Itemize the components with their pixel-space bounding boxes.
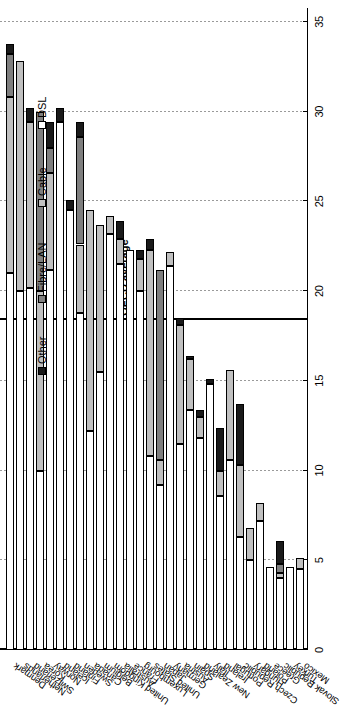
bar-segment-dsl[interactable]: [166, 266, 174, 650]
bar-segment-dsl[interactable]: [136, 291, 144, 650]
bar-row[interactable]: [6, 22, 14, 650]
bar-row[interactable]: [106, 22, 114, 650]
bar-segment-other[interactable]: [26, 108, 34, 122]
bar-row[interactable]: [176, 22, 184, 650]
bar-segment-dsl[interactable]: [26, 288, 34, 650]
bar-segment-dsl[interactable]: [6, 273, 14, 650]
bar-segment-cable[interactable]: [96, 225, 104, 372]
bar-segment-dsl[interactable]: [66, 210, 74, 650]
bar-row[interactable]: [146, 22, 154, 650]
bar-segment-other[interactable]: [176, 318, 184, 325]
bar-segment-dsl[interactable]: [226, 460, 234, 650]
bar-segment-cable[interactable]: [76, 245, 84, 313]
bar-segment-cable[interactable]: [146, 250, 154, 456]
bar-segment-dsl[interactable]: [176, 444, 184, 650]
bar-row[interactable]: [96, 22, 104, 650]
bar-segment-other[interactable]: [236, 404, 244, 465]
bar-segment-cable[interactable]: [166, 252, 174, 266]
bar-segment-cable[interactable]: [276, 573, 284, 578]
bar-row[interactable]: [116, 22, 124, 650]
bar-segment-cable[interactable]: [296, 559, 304, 570]
bar-row[interactable]: [186, 22, 194, 650]
bar-row[interactable]: [196, 22, 204, 650]
bar-row[interactable]: [136, 22, 144, 650]
bar-row[interactable]: [86, 22, 94, 650]
bar-segment-dsl[interactable]: [36, 471, 44, 650]
bar-row[interactable]: [46, 22, 54, 650]
bar-segment-fibre-lan[interactable]: [46, 148, 54, 173]
bar-segment-dsl[interactable]: [106, 234, 114, 650]
bar-segment-cable[interactable]: [106, 216, 114, 234]
bar-segment-cable[interactable]: [176, 325, 184, 443]
bar-segment-dsl[interactable]: [116, 264, 124, 650]
bar-segment-cable[interactable]: [46, 173, 54, 270]
bar-segment-cable[interactable]: [196, 417, 204, 439]
bar-row[interactable]: [236, 22, 244, 650]
bar-segment-cable[interactable]: [26, 123, 34, 288]
bar-segment-cable[interactable]: [226, 370, 234, 460]
bar-segment-fibre-lan[interactable]: [76, 137, 84, 245]
bar-segment-dsl[interactable]: [266, 567, 274, 650]
bar-row[interactable]: [16, 22, 24, 650]
bar-segment-other[interactable]: [76, 123, 84, 137]
bar-row[interactable]: [246, 22, 254, 650]
bar-segment-dsl[interactable]: [16, 291, 24, 650]
bar-row[interactable]: [206, 22, 214, 650]
bar-row[interactable]: [266, 22, 274, 650]
bar-segment-dsl[interactable]: [46, 270, 54, 650]
bar-segment-other[interactable]: [196, 410, 204, 417]
bar-segment-cable[interactable]: [6, 97, 14, 273]
bar-row[interactable]: [166, 22, 174, 650]
bar-segment-cable[interactable]: [116, 239, 124, 264]
bar-segment-dsl[interactable]: [276, 578, 284, 650]
bar-segment-other[interactable]: [136, 250, 144, 259]
bar-row[interactable]: [276, 22, 284, 650]
bar-row[interactable]: [216, 22, 224, 650]
bar-row[interactable]: [126, 22, 134, 650]
bar-segment-dsl[interactable]: [216, 496, 224, 650]
bar-segment-dsl[interactable]: [196, 438, 204, 650]
bar-row[interactable]: [26, 22, 34, 650]
bar-segment-dsl[interactable]: [246, 560, 254, 650]
bar-segment-cable[interactable]: [216, 471, 224, 496]
bar-segment-other[interactable]: [146, 239, 154, 250]
bar-segment-cable[interactable]: [16, 62, 24, 292]
bar-segment-cable[interactable]: [156, 460, 164, 485]
bar-row[interactable]: [76, 22, 84, 650]
bar-segment-fibre-lan[interactable]: [156, 270, 164, 460]
bar-segment-other[interactable]: [56, 108, 64, 122]
bar-segment-dsl[interactable]: [56, 122, 64, 650]
bar-segment-fibre-lan[interactable]: [6, 54, 14, 97]
bar-segment-dsl[interactable]: [256, 521, 264, 650]
bar-segment-dsl[interactable]: [86, 431, 94, 650]
bar-segment-fibre-lan[interactable]: [276, 564, 284, 573]
bar-segment-other[interactable]: [6, 44, 14, 55]
bar-segment-cable[interactable]: [256, 503, 264, 521]
bar-segment-dsl[interactable]: [76, 313, 84, 650]
bar-segment-other[interactable]: [186, 356, 194, 360]
bar-row[interactable]: [226, 22, 234, 650]
bar-segment-other[interactable]: [116, 221, 124, 239]
bar-segment-dsl[interactable]: [206, 384, 214, 650]
bar-segment-cable[interactable]: [236, 465, 244, 537]
bar-row[interactable]: [256, 22, 264, 650]
bar-segment-dsl[interactable]: [286, 567, 294, 650]
bar-segment-cable[interactable]: [246, 528, 254, 560]
bar-segment-cable[interactable]: [136, 259, 144, 291]
bar-row[interactable]: [66, 22, 74, 650]
bar-segment-other[interactable]: [66, 200, 74, 211]
bar-segment-dsl[interactable]: [126, 250, 134, 650]
bar-segment-fibre-lan[interactable]: [36, 112, 44, 291]
bar-row[interactable]: [286, 22, 294, 650]
bar-row[interactable]: [296, 22, 304, 650]
bar-segment-other[interactable]: [46, 123, 54, 148]
bar-row[interactable]: [56, 22, 64, 650]
bar-segment-dsl[interactable]: [296, 569, 304, 650]
bar-segment-cable[interactable]: [186, 359, 194, 409]
bar-segment-other[interactable]: [216, 428, 224, 471]
bar-segment-cable[interactable]: [36, 291, 44, 470]
bar-row[interactable]: [36, 22, 44, 650]
bar-row[interactable]: [156, 22, 164, 650]
bar-segment-cable[interactable]: [86, 210, 94, 431]
bar-segment-dsl[interactable]: [96, 372, 104, 650]
